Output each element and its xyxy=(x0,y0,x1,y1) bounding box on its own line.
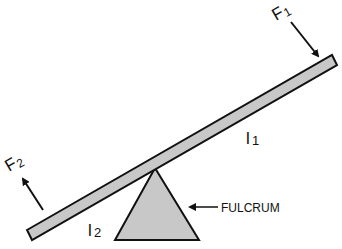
force-f1-arrow xyxy=(291,22,318,56)
label-f2: F 2 xyxy=(2,150,28,176)
label-fulcrum: FULCRUM xyxy=(221,201,280,215)
lever-diagram: F 1 F 2 l 1 l 2 FULCRUM xyxy=(0,0,342,249)
svg-text:2: 2 xyxy=(94,225,101,240)
svg-text:l: l xyxy=(88,221,92,240)
label-f1: F 1 xyxy=(269,0,295,25)
svg-text:l: l xyxy=(246,129,250,148)
svg-text:1: 1 xyxy=(252,133,259,148)
force-f2-arrow xyxy=(23,179,43,210)
label-l1: l 1 xyxy=(246,129,259,148)
label-l2: l 2 xyxy=(88,221,101,240)
